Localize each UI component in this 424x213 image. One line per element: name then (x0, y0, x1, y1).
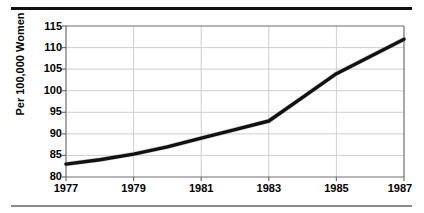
bottom-divider-rule (11, 205, 412, 207)
line-chart-svg (0, 10, 424, 203)
chart-plot-container: Per 100,000 Women 115 110 105 100 95 90 … (0, 10, 424, 203)
x-tick-label: 1983 (246, 182, 292, 194)
x-tick-label: 1985 (313, 182, 359, 194)
figure: Per 100,000 Women 115 110 105 100 95 90 … (0, 0, 424, 213)
x-tick-label: 1981 (178, 182, 224, 194)
x-axis-ticks (66, 177, 404, 181)
x-tick-label: 1979 (111, 182, 157, 194)
plot-background (66, 26, 404, 177)
x-tick-label: 1977 (43, 182, 89, 194)
x-tick-label: 1987 (377, 182, 423, 194)
